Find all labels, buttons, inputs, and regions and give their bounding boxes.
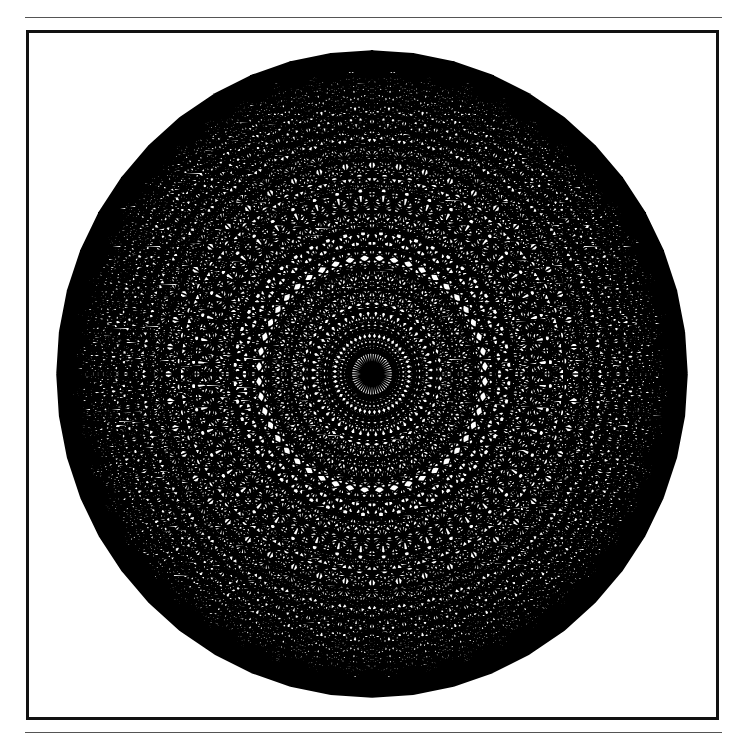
- chord-lines: [57, 51, 687, 697]
- mystic-rose-figure: [0, 0, 731, 741]
- bottom-rule: [25, 732, 722, 733]
